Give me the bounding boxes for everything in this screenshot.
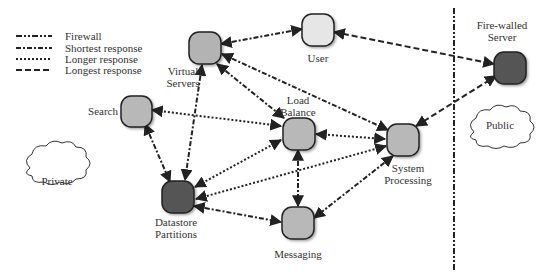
messaging-label: Messaging xyxy=(274,248,322,260)
edge-search-datastore xyxy=(145,124,170,182)
network-diagram: Firewall Shortest response Longer respon… xyxy=(0,0,542,276)
node-search[interactable]: Search xyxy=(88,96,152,127)
load-balance-label-2: Balance xyxy=(280,106,316,118)
node-system-processing[interactable]: System Processing xyxy=(384,124,432,186)
node-user[interactable]: User xyxy=(302,14,334,64)
search-label: Search xyxy=(88,105,118,117)
private-label: Private xyxy=(41,175,72,187)
public-label: Public xyxy=(486,119,514,131)
private-cloud: Private xyxy=(26,141,90,187)
public-cloud: Public xyxy=(470,105,534,148)
datastore-label-2: Partitions xyxy=(155,228,197,240)
edge-virtual-load xyxy=(217,64,284,118)
user-label: User xyxy=(308,52,329,64)
edge-load-datastore xyxy=(195,140,281,187)
node-load-balance[interactable]: Load Balance xyxy=(280,94,316,150)
edge-load-system xyxy=(316,134,385,139)
legend-longest-label: Longest response xyxy=(65,64,142,76)
legend-firewall-label: Firewall xyxy=(65,30,102,42)
edge-system-datastore xyxy=(196,146,386,199)
legend: Firewall Shortest response Longer respon… xyxy=(16,30,142,76)
node-firewalled-server[interactable]: Fire-walled Server xyxy=(477,19,528,84)
edge-user-firewalled xyxy=(334,32,494,64)
edge-system-messaging xyxy=(314,156,393,218)
datastore-label-1: Datastore xyxy=(155,216,197,228)
edge-datastore-messaging xyxy=(194,206,281,222)
edge-virtual-user xyxy=(221,29,302,44)
load-balance-label-1: Load xyxy=(287,94,310,106)
firewalled-server-label-1: Fire-walled xyxy=(477,19,528,31)
firewalled-server-label-2: Server xyxy=(488,31,517,43)
virtual-servers-label-2: Servers xyxy=(167,77,200,89)
system-processing-label-1: System xyxy=(392,162,425,174)
virtual-servers-label-1: Virtual xyxy=(168,65,199,77)
node-messaging[interactable]: Messaging xyxy=(274,207,322,260)
node-virtual-servers[interactable]: Virtual Servers xyxy=(167,32,222,89)
edge-search-load xyxy=(152,110,281,126)
node-datastore-partitions[interactable]: Datastore Partitions xyxy=(155,181,197,240)
system-processing-label-2: Processing xyxy=(384,174,432,186)
